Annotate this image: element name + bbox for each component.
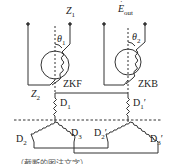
d2-d2p-wire [34,142,108,148]
d1-coil [54,93,57,122]
d1p-coil [127,93,130,122]
d3p-label: D3′ [150,134,163,147]
d3-label: D3 [71,128,82,141]
z2-lead [28,24,55,85]
d2p-coil [106,122,130,142]
z1-label: Z1 [66,6,75,19]
zkb-left-lead [104,24,128,85]
zkb-label: ZKB [138,79,158,89]
eout-label: E·out [118,4,133,17]
zkb-rotor-coil [126,50,138,84]
d1p-label: D1′ [133,98,146,111]
d2p-label: D2′ [94,128,107,141]
d2-label: D2 [16,134,27,147]
d1-label: D1 [60,98,71,111]
figure-caption: ……（截断的图注文字） [0,157,174,164]
theta1-label: θ1 [57,34,65,47]
theta2-label: θ2 [132,32,140,45]
zkf-label: ZKF [63,79,82,89]
d2-coil [31,122,55,142]
z2-label: Z2 [31,89,40,102]
